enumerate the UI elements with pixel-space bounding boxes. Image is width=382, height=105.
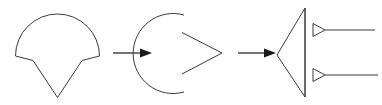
leader-bottom-triangle-icon	[313, 69, 325, 82]
left-pointing-triangle-outline	[277, 8, 305, 97]
chevron-right-icon	[182, 33, 222, 75]
arrow-1-head-icon	[140, 49, 152, 58]
leader-line-bottom	[313, 69, 378, 82]
dome-with-v-notch-outline	[16, 14, 100, 98]
transform-arrow-2	[238, 49, 276, 58]
shape-left-pointing-triangle-with-leaders	[277, 8, 378, 97]
leader-line-top	[313, 24, 375, 37]
transform-arrow-1	[113, 49, 152, 58]
arrow-2-head-icon	[264, 49, 276, 58]
leader-top-triangle-icon	[313, 24, 325, 37]
shape-transformation-diagram	[0, 0, 382, 105]
shape-dome-with-v-notch	[16, 14, 100, 98]
diagram-canvas	[0, 0, 382, 105]
